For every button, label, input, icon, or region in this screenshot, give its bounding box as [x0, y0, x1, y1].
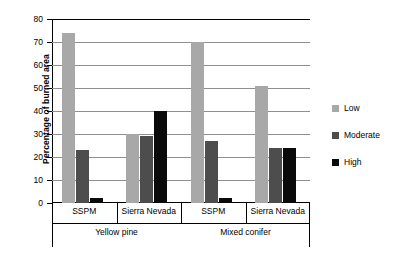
bar	[283, 148, 296, 203]
legend-label: High	[344, 158, 361, 167]
bar	[205, 141, 218, 203]
group-label: Mixed conifer	[181, 227, 310, 237]
bar	[126, 134, 139, 203]
y-axis-tick-label: 50	[21, 83, 47, 93]
bar	[191, 42, 204, 203]
group-rule	[181, 223, 310, 224]
chart-legend: LowModerateHigh	[332, 104, 402, 185]
legend-label: Moderate	[344, 131, 380, 140]
bar	[62, 33, 75, 203]
legend-label: Low	[344, 104, 360, 113]
bar	[76, 150, 89, 203]
y-axis-tick: 10	[21, 175, 52, 185]
category-label: Sierra Nevada	[246, 206, 311, 216]
plot-area: 01020304050607080	[52, 19, 310, 203]
y-axis-tick: 60	[21, 60, 52, 70]
legend-swatch-icon	[332, 159, 339, 166]
legend-swatch-icon	[332, 105, 339, 112]
category-label: SSPM	[52, 206, 117, 216]
bar	[140, 136, 153, 203]
legend-swatch-icon	[332, 132, 339, 139]
group-rule	[52, 223, 181, 224]
legend-item[interactable]: Moderate	[332, 131, 402, 140]
y-axis-tick: 80	[21, 14, 52, 24]
y-axis-tick: 70	[21, 37, 52, 47]
legend-item[interactable]: Low	[332, 104, 402, 113]
bar-chart: Percentage of burned area 01020304050607…	[0, 0, 406, 261]
bar	[269, 148, 282, 203]
y-axis-tick: 30	[21, 129, 52, 139]
category-label: SSPM	[181, 206, 246, 216]
y-axis-tick-label: 30	[21, 129, 47, 139]
y-axis-tick: 0	[21, 198, 52, 208]
category-label: Sierra Nevada	[117, 206, 182, 216]
bar	[255, 86, 268, 203]
y-axis-tick-label: 70	[21, 37, 47, 47]
y-axis-tick: 50	[21, 83, 52, 93]
y-axis-tick: 20	[21, 152, 52, 162]
bars-layer	[52, 19, 310, 203]
y-axis-tick-label: 80	[21, 14, 47, 24]
y-axis-tick-label: 40	[21, 106, 47, 116]
legend-item[interactable]: High	[332, 158, 402, 167]
y-axis-tick: 40	[21, 106, 52, 116]
group-label: Yellow pine	[52, 227, 181, 237]
y-axis-tick-label: 60	[21, 60, 47, 70]
bar	[154, 111, 167, 203]
y-axis-tick-label: 10	[21, 175, 47, 185]
y-axis-tick-label: 0	[21, 198, 47, 208]
y-axis-tick-label: 20	[21, 152, 47, 162]
category-axis: SSPMSierra NevadaSSPMSierra NevadaYellow…	[52, 203, 310, 247]
